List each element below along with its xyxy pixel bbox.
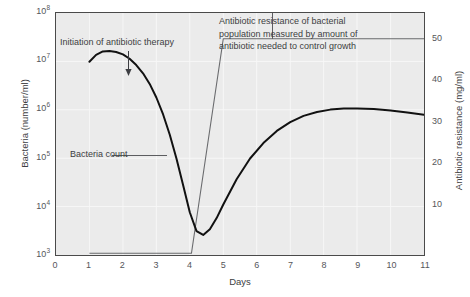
x-tick-4: 4	[180, 261, 200, 270]
x-tick-8: 8	[314, 261, 334, 270]
annotation-bacteria-count: Bacteria count	[70, 148, 128, 161]
x-tick-3: 3	[146, 261, 166, 270]
x-tick-6: 6	[247, 261, 267, 270]
y-right-tick-50: 50	[432, 34, 452, 43]
annotation-initiation-of-therapy: Initiation of antibiotic therapy	[60, 36, 174, 49]
y-left-tick-4-exponent: 4	[46, 199, 50, 206]
y-right-tick-40: 40	[432, 75, 452, 84]
chart-figure: 108 107 106 105 104 103 50 40 30 20 10 0…	[0, 0, 470, 297]
series-bacteria-count	[89, 51, 424, 235]
x-axis-title: Days	[185, 276, 295, 287]
y-left-tick-3-exponent: 3	[46, 247, 50, 254]
annotation-antibiotic-resistance: Antibiotic resistance of bacterial popul…	[219, 15, 358, 53]
y-right-tick-10: 10	[432, 200, 452, 209]
y-left-tick-8-exponent: 8	[46, 4, 50, 11]
y-left-tick-5-exponent: 5	[46, 150, 50, 157]
x-tick-9: 9	[348, 261, 368, 270]
x-tick-0: 0	[45, 261, 65, 270]
y-axis-right-title: Antibiotic resistance (mg/ml)	[453, 51, 464, 211]
y-axis-left-title: Bacteria (number/ml)	[19, 44, 30, 204]
x-tick-1: 1	[79, 261, 99, 270]
x-tick-10: 10	[381, 261, 401, 270]
x-tick-7: 7	[281, 261, 301, 270]
y-left-tick-3: 103	[22, 250, 50, 259]
x-tick-2: 2	[112, 261, 132, 270]
y-left-tick-6-exponent: 6	[46, 101, 50, 108]
x-tick-11: 11	[415, 261, 435, 270]
x-tick-5: 5	[213, 261, 233, 270]
y-left-tick-8: 108	[22, 7, 50, 16]
initiation-arrow-icon	[124, 51, 133, 77]
y-right-tick-20: 20	[432, 158, 452, 167]
y-right-tick-30: 30	[432, 117, 452, 126]
y-left-tick-7-exponent: 7	[46, 52, 50, 59]
series-antibiotic-resistance	[89, 39, 424, 254]
